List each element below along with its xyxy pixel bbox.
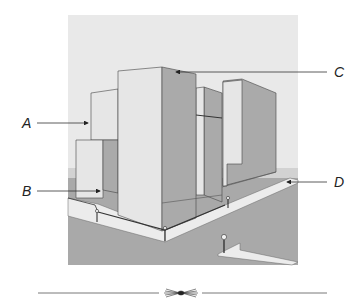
divider-ornament-icon (164, 289, 198, 297)
low-building-side (103, 140, 118, 193)
label-c: C (334, 64, 345, 80)
illustration (68, 15, 298, 265)
low-building-front (76, 140, 103, 198)
main-building-side (162, 67, 196, 231)
label-a: A (21, 115, 31, 131)
main-building-front (118, 67, 162, 231)
back-left-building (91, 89, 118, 140)
middle-building-front (196, 87, 204, 195)
label-b: B (22, 183, 31, 199)
label-d: D (334, 174, 344, 190)
perspective-street-diagram: A B C D (0, 0, 364, 306)
middle-building-side (204, 87, 222, 202)
decorative-divider (38, 289, 327, 297)
